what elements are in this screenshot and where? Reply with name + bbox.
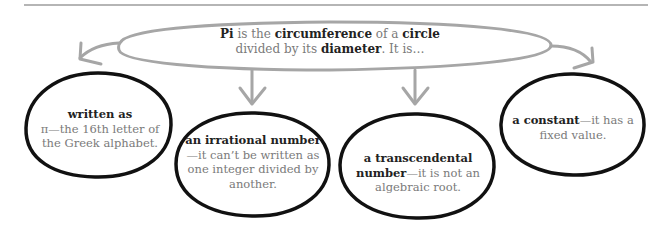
bubble-written-as: written as π—the 16th letter of the Gree… <box>30 107 170 151</box>
term-pi: Pi <box>220 27 234 41</box>
term-circumference: circumference <box>275 27 372 41</box>
bubble-irrational-body: —it can’t be written as one integer divi… <box>187 148 320 191</box>
arrow-to-constant <box>551 46 591 62</box>
bubble-constant-title: a constant <box>512 113 579 127</box>
bubble-constant: a constant—it has a fixed value. <box>512 113 634 142</box>
bubble-irrational-title: an irrational number <box>185 133 321 147</box>
term-circle: circle <box>402 27 440 41</box>
arrow-to-written-as <box>80 43 119 58</box>
term-diameter: diameter <box>321 42 382 56</box>
central-statement: Pi is the circumference of a circle divi… <box>200 27 460 57</box>
bubble-written-as-body: π—the 16th letter of the Greek alphabet. <box>41 122 160 151</box>
bubble-transcendental: a transcendental number—it is not an alg… <box>348 151 488 195</box>
bubble-irrational: an irrational number—it can’t be written… <box>184 133 322 191</box>
bubble-written-as-title: written as <box>68 107 133 121</box>
